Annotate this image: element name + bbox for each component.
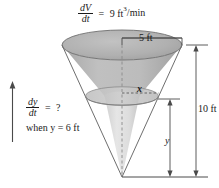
dim-10ft-arrowhead-top xyxy=(193,45,198,52)
dt-denominator: dt xyxy=(78,14,93,24)
cone-related-rates-figure xyxy=(0,0,219,188)
dimension-label-cone-height: 10 ft xyxy=(198,104,217,114)
dim-y-arrowhead-bottom xyxy=(167,171,172,178)
volume-rate-equals: = xyxy=(96,9,105,19)
dim-10ft-arrowhead-bottom xyxy=(193,171,198,178)
dimension-label-water-height: y xyxy=(165,136,169,146)
height-rate-equals: = xyxy=(42,103,51,113)
condition-label: when y = 6 ft xyxy=(26,123,79,133)
volume-rate-per-unit: /min xyxy=(127,7,145,18)
dv-dt-fraction: dV dt xyxy=(78,3,93,24)
dim-y-arrowhead-top xyxy=(167,99,172,106)
dy-dt-fraction: dy dt xyxy=(26,97,39,118)
dimension-label-water-radius: x xyxy=(137,84,142,94)
height-rate-value: ? xyxy=(53,103,60,113)
dimension-label-top-radius: 5 ft xyxy=(139,33,153,43)
left-up-arrow-head xyxy=(10,81,16,89)
volume-rate-label: dV dt = 9 ft3/min xyxy=(78,3,145,24)
height-rate-label: dy dt = ? xyxy=(26,97,61,118)
dt-denominator-2: dt xyxy=(26,108,39,118)
volume-rate-value: 9 ft xyxy=(107,9,124,19)
